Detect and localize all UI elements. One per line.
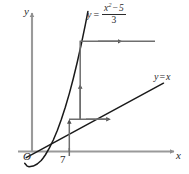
origin-label: O bbox=[23, 151, 31, 162]
axes-group bbox=[18, 13, 174, 152]
parabola-label-numerator: x2−5 bbox=[102, 4, 126, 15]
parabola-curve bbox=[25, 12, 88, 167]
cobweb-arrows-group bbox=[69, 41, 155, 156]
identity-line-group bbox=[26, 83, 163, 157]
x-axis-label: x bbox=[176, 150, 181, 161]
identity-line-label: y=x bbox=[154, 72, 171, 82]
y-axis-label: y bbox=[24, 6, 29, 17]
x-tick-label-7: 7 bbox=[60, 154, 66, 165]
parabola-label-denominator: 3 bbox=[112, 15, 117, 25]
diagram-canvas bbox=[0, 0, 189, 174]
parabola-label-equals: = bbox=[91, 10, 101, 20]
parabola-curve-group bbox=[25, 12, 88, 167]
parabola-numerator-operator: − bbox=[112, 3, 119, 13]
identity-line-label-equals: = bbox=[158, 71, 166, 82]
parabola-label: y= x2−5 3 bbox=[87, 4, 126, 25]
identity-line bbox=[26, 83, 163, 157]
identity-line-label-rhs: x bbox=[166, 71, 170, 82]
cobweb-diagram-figure: y x O 7 y=x y= x2−5 3 bbox=[0, 0, 189, 174]
parabola-numerator-constant: 5 bbox=[119, 3, 124, 13]
parabola-label-fraction: x2−5 3 bbox=[102, 4, 126, 25]
